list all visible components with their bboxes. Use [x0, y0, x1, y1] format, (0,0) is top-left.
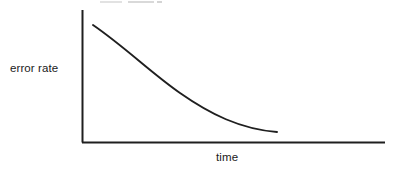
plot-area [0, 0, 394, 173]
y-axis-label: error rate [10, 63, 58, 75]
error-rate-curve [93, 25, 277, 132]
chart-figure: error rate time [0, 0, 394, 173]
x-axis-label: time [216, 152, 238, 164]
